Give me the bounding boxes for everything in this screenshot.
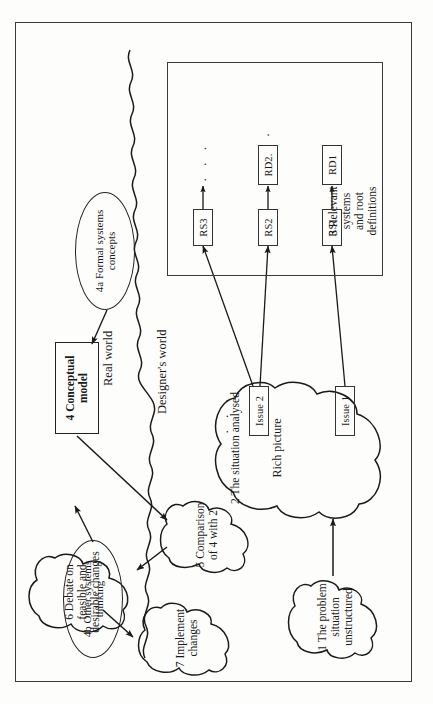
issue-box-issue-1[interactable]: Issue 1 bbox=[335, 386, 355, 436]
stage-4-conceptual-model[interactable]: 4 Conceptual model bbox=[55, 342, 99, 434]
figure-page: Real world Designer's world 7 Implement … bbox=[0, 0, 433, 704]
label-designers-world: Designer's world bbox=[155, 329, 170, 414]
stage-2-sublabel: Rich picture bbox=[271, 378, 284, 518]
stage-7-implement-changes[interactable]: 7 Implement changes bbox=[133, 598, 241, 678]
stage-1-problem-situation[interactable]: 1 The problem situation unstructured bbox=[283, 574, 387, 660]
label-real-world: Real world bbox=[101, 331, 116, 386]
stage-4a-formal-systems-concepts[interactable]: 4a Formal systems concepts bbox=[75, 192, 135, 310]
arrow-4b-to-4 bbox=[75, 506, 93, 542]
relevant-system-rs3[interactable]: RS3 bbox=[193, 209, 213, 246]
issue-box-issue-2[interactable]: Issue 2 bbox=[249, 386, 269, 436]
stage-4b-other-systems-thinking[interactable]: 4b Other systems thinking bbox=[63, 540, 123, 658]
stage-1-label: 1 The problem situation unstructured bbox=[316, 574, 355, 660]
root-definition-rd1[interactable]: RD1 bbox=[322, 145, 342, 185]
stage-4-label: 4 Conceptual model bbox=[64, 343, 90, 433]
issue-ellipsis: · · · bbox=[219, 395, 235, 435]
arrow-4-to-5 bbox=[77, 436, 167, 520]
rd-ellipsis: · bbox=[261, 129, 276, 137]
stage-4a-label: 4a Formal systems concepts bbox=[93, 193, 118, 309]
rs3-ellipsis: · · · bbox=[197, 143, 213, 183]
stage-4b-label: 4b Other systems thinking bbox=[81, 541, 106, 657]
stage-7-label: 7 Implement changes bbox=[174, 598, 200, 678]
relevant-system-rs2[interactable]: RS2 bbox=[258, 209, 278, 246]
relevant-system-rs1[interactable]: RS1 bbox=[322, 209, 342, 246]
diagram-canvas: Real world Designer's world 7 Implement … bbox=[15, 22, 412, 682]
root-definition-rd2[interactable]: RD2. bbox=[258, 145, 278, 185]
